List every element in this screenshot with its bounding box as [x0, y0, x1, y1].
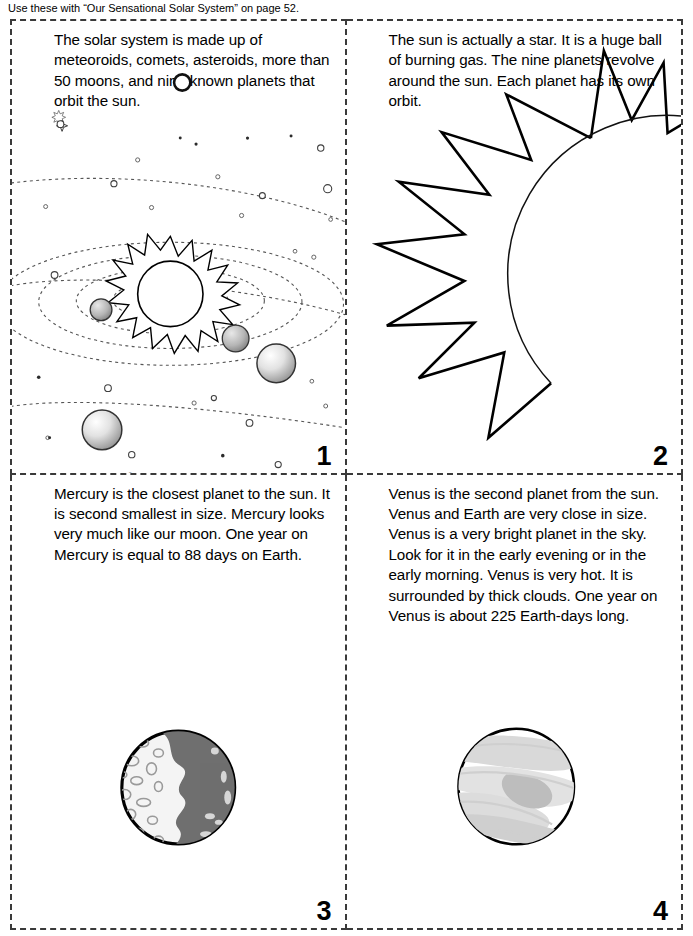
card-4-venus[interactable]: Venus is the second planet from the sun.… — [347, 475, 684, 931]
planet-large-bottom-left — [82, 410, 122, 450]
sun-disc-arc — [507, 116, 681, 384]
card-2-sun[interactable]: The sun is actually a star. It is a huge… — [347, 19, 684, 475]
venus-illustration — [347, 665, 682, 928]
planet-inner-left — [90, 299, 112, 321]
sun-glyph — [106, 234, 240, 353]
card-3-number: 3 — [316, 896, 331, 926]
card-3-text: Mercury is the closest planet to the sun… — [54, 484, 333, 566]
planet-mid-right — [222, 325, 249, 352]
card-3-mercury[interactable]: Mercury is the closest planet to the sun… — [10, 475, 347, 931]
star-cluster — [57, 120, 68, 131]
card-2-number: 2 — [653, 441, 668, 471]
star-dots — [37, 121, 333, 468]
card-1-solar-system[interactable]: The solar system is made up of meteoroid… — [10, 19, 347, 475]
worksheet-header-note: Use these with “Our Sensational Solar Sy… — [8, 1, 299, 15]
mercury-illustration — [12, 665, 345, 928]
mercury-terminator — [119, 725, 250, 860]
mercury-disc — [122, 731, 235, 844]
card-4-text: Venus is the second planet from the sun.… — [389, 484, 670, 627]
orbit-paths — [12, 178, 345, 429]
card-4-number: 4 — [653, 896, 668, 926]
venus-disc — [458, 729, 573, 844]
cut-apart-card-grid: The solar system is made up of meteoroid… — [10, 19, 683, 930]
planet-large-right — [257, 344, 296, 383]
card-2-text: The sun is actually a star. It is a huge… — [389, 30, 670, 112]
star-field — [52, 110, 66, 124]
card-1-number: 1 — [316, 441, 331, 471]
mercury-craters — [119, 730, 164, 844]
venus-cloud-bands — [440, 736, 586, 857]
card-1-text: The solar system is made up of meteoroid… — [54, 30, 333, 112]
